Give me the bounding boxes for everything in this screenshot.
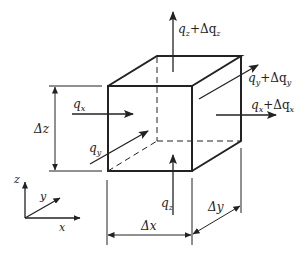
label-dy: Δy [207,200,224,214]
flux-arrows [72,12,276,215]
right-face [192,56,241,171]
label-qx-plus: qx+Δqx [251,98,295,114]
top-face [108,56,241,86]
label-dx: Δx [140,219,157,233]
label-qz: qz [161,196,174,212]
label-axis-z: z [13,173,20,186]
coordinate-axes [25,182,80,218]
control-volume-diagram: qz+Δqz qy+Δqy qx+Δqx qx qy qz Δz Δx Δy z… [0,0,306,257]
front-face [108,86,192,171]
label-qz-plus: qz+Δqz [178,22,221,38]
hidden-edge-left-bottom [108,141,157,171]
label-axis-y: y [39,190,47,203]
label-qy-plus: qy+Δqy [248,71,292,87]
label-axis-x: x [59,221,66,234]
label-dz: Δz [33,122,50,136]
label-qy: qy [89,141,102,157]
label-qx: qx [73,97,86,113]
